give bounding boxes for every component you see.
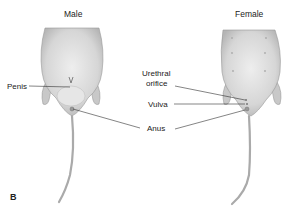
- female-urethral-orifice: [245, 99, 247, 101]
- anus-label: Anus: [147, 124, 165, 133]
- urethral-orifice-label-line1: Urethral: [142, 69, 170, 78]
- female-tail: [232, 116, 250, 204]
- male-title: Male: [64, 10, 82, 19]
- female-anus-leader: [175, 110, 245, 129]
- female-vulva: [246, 103, 248, 105]
- male-anus-leader: [73, 109, 140, 128]
- panel-label: B: [10, 192, 17, 202]
- male-scrotum: [57, 86, 85, 106]
- female-torso: [221, 30, 280, 116]
- urethral-orifice-label-line2: orifice: [146, 79, 167, 88]
- female-anus: [245, 107, 249, 111]
- penis-label: Penis: [7, 82, 27, 91]
- vulva-label: Vulva: [148, 100, 168, 109]
- rat-anatomy-diagram: [0, 0, 285, 212]
- male-tail: [59, 116, 73, 202]
- female-rat-figure: [221, 30, 281, 204]
- female-title: Female: [235, 10, 263, 19]
